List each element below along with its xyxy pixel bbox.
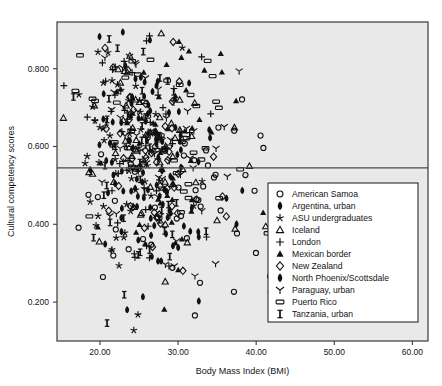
legend: American SamoaArgentina, urbanASU underg… xyxy=(268,183,418,322)
legend-item[interactable]: London xyxy=(269,236,417,248)
y-tick-label: 0.600 xyxy=(28,141,50,151)
chart-canvas: 20.0030.0040.0050.0060.000.2000.4000.600… xyxy=(0,0,442,386)
legend-item-label: Tanzania, urban xyxy=(292,309,353,319)
legend-item[interactable]: North Phoenix/Scottsdale xyxy=(269,272,417,284)
legend-item[interactable]: Paraguay, urban xyxy=(269,284,417,296)
legend-item[interactable]: Puerto Rico xyxy=(269,296,417,308)
legend-item-label: ASU undergraduates xyxy=(292,213,372,223)
legend-item-label: London xyxy=(292,237,321,247)
x-axis-label: Body Mass Index (BMI) xyxy=(196,366,290,376)
x-tick-label: 40.00 xyxy=(246,347,268,357)
legend-item-label: Argentina, urban xyxy=(292,201,356,211)
y-tick-label: 0.800 xyxy=(28,64,50,74)
legend-item[interactable]: Iceland xyxy=(269,224,417,236)
legend-item[interactable]: Tanzania, urban xyxy=(269,308,417,320)
legend-item-label: Puerto Rico xyxy=(292,297,337,307)
legend-item[interactable]: New Zealand xyxy=(269,260,417,272)
legend-item-label: American Samoa xyxy=(292,189,358,199)
legend-item-label: North Phoenix/Scottsdale xyxy=(292,273,389,283)
y-tick-label: 0.200 xyxy=(28,297,50,307)
y-axis-label: Cultural competency scores xyxy=(6,125,16,237)
legend-item[interactable]: American Samoa xyxy=(269,188,417,200)
y-tick-label: 0.400 xyxy=(28,219,50,229)
legend-item-label: New Zealand xyxy=(292,261,343,271)
legend-item[interactable]: Argentina, urban xyxy=(269,200,417,212)
legend-item-label: Paraguay, urban xyxy=(292,285,355,295)
scatter-plot-figure: 20.0030.0040.0050.0060.000.2000.4000.600… xyxy=(0,0,442,386)
legend-item[interactable]: Mexican border xyxy=(269,248,417,260)
legend-item-label: Iceland xyxy=(292,225,320,235)
x-tick-label: 30.00 xyxy=(167,347,189,357)
x-tick-label: 60.00 xyxy=(402,347,424,357)
x-tick-label: 20.00 xyxy=(89,347,111,357)
x-tick-label: 50.00 xyxy=(324,347,346,357)
legend-item[interactable]: ASU undergraduates xyxy=(269,212,417,224)
legend-item-label: Mexican border xyxy=(292,249,351,259)
